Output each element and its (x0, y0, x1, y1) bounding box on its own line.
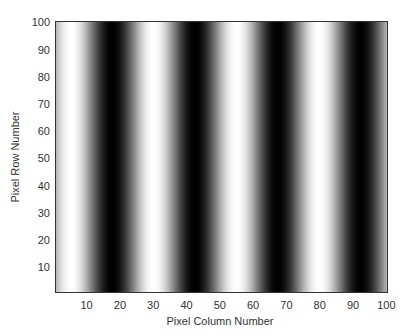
x-tick-label: 60 (247, 299, 259, 311)
image-plot-area (55, 21, 388, 293)
y-tick-label: 80 (20, 71, 50, 83)
x-tick-label: 20 (114, 299, 126, 311)
x-tick-label: 50 (214, 299, 226, 311)
x-tick-label: 10 (81, 299, 93, 311)
y-tick-label: 50 (20, 152, 50, 164)
y-tick-label: 100 (20, 16, 50, 28)
x-tick-label: 100 (377, 299, 395, 311)
x-tick-label: 90 (347, 299, 359, 311)
y-tick-label: 20 (20, 234, 50, 246)
x-tick-label: 70 (280, 299, 292, 311)
x-tick-label: 40 (180, 299, 192, 311)
x-tick-label: 30 (147, 299, 159, 311)
y-tick-label: 30 (20, 207, 50, 219)
y-tick-label: 70 (20, 98, 50, 110)
y-axis-label: Pixel Row Number (9, 111, 21, 202)
y-tick-label: 90 (20, 44, 50, 56)
y-tick-label: 10 (20, 261, 50, 273)
x-axis-label: Pixel Column Number (0, 315, 410, 327)
x-tick-label: 80 (314, 299, 326, 311)
y-tick-label: 60 (20, 125, 50, 137)
y-tick-label: 40 (20, 180, 50, 192)
